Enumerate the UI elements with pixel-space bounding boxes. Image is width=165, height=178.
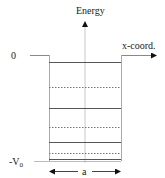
energy-axis-label: Energy xyxy=(76,5,105,16)
zero-label: 0 xyxy=(11,50,16,61)
potential-well-diagram: Energy x-coord. 0 -V0 a xyxy=(0,0,165,178)
bottom-label: -V0 xyxy=(9,156,24,169)
bottom-label-subscript: 0 xyxy=(20,161,24,169)
x-axis-label: x-coord. xyxy=(122,40,156,51)
width-label: a xyxy=(82,166,87,177)
